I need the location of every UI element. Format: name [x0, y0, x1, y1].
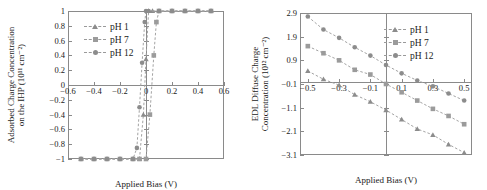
data-point-marker: [446, 142, 451, 147]
data-point-marker: [368, 53, 373, 58]
data-point-marker: [368, 72, 373, 77]
data-point-marker: [399, 90, 404, 95]
data-point-marker: [462, 122, 467, 127]
data-point-marker: [79, 157, 84, 162]
legend-item-ph12-left: pH 12: [84, 46, 134, 59]
data-point-marker: [321, 51, 326, 56]
legend-marker-circle-icon: [384, 50, 406, 61]
data-point-marker: [196, 9, 201, 14]
legend-marker-triangle-icon: [384, 24, 406, 35]
data-point-marker: [352, 92, 357, 97]
data-point-marker: [446, 91, 451, 96]
data-point-marker: [157, 9, 162, 14]
legend-item-ph7-right: pH 7: [384, 36, 434, 49]
data-point-marker: [105, 157, 110, 162]
data-point-marker: [209, 9, 214, 14]
data-point-marker: [143, 56, 148, 61]
x-axis-title-left: Applied Bias (V): [68, 179, 224, 189]
data-point-marker: [352, 45, 357, 50]
data-point-marker: [146, 9, 151, 14]
data-point-marker: [92, 157, 97, 162]
legend-item-ph7-left: pH 7: [84, 33, 134, 46]
data-point-marker: [305, 68, 310, 73]
data-point-marker: [135, 146, 140, 151]
data-point-marker: [415, 98, 420, 103]
data-point-marker: [399, 117, 404, 122]
data-point-marker: [368, 99, 373, 104]
data-point-marker: [131, 157, 136, 162]
data-point-marker: [321, 77, 326, 82]
data-point-marker: [148, 112, 153, 117]
data-point-marker: [142, 20, 147, 25]
legend-marker-circle-icon: [84, 47, 106, 58]
data-point-marker: [306, 44, 311, 49]
legend-label-ph1-left: pH 1: [110, 22, 129, 32]
legend-label-ph7-right: pH 7: [410, 38, 429, 48]
legend-item-ph12-right: pH 12: [384, 49, 434, 62]
data-point-marker: [140, 61, 145, 66]
legend-label-ph1-right: pH 1: [410, 25, 429, 35]
data-point-marker: [415, 126, 420, 131]
legend-marker-square-icon: [84, 34, 106, 45]
data-point-marker: [431, 84, 436, 89]
series-ph-1: [305, 68, 467, 154]
x-axis-title-right: Applied Bias (V): [300, 175, 472, 185]
data-point-marker: [306, 14, 311, 19]
legend-right: pH 1 pH 7 pH 12: [384, 23, 434, 62]
data-point-marker: [141, 112, 146, 117]
data-point-marker: [137, 157, 142, 162]
data-point-marker: [352, 68, 357, 73]
data-point-marker: [170, 9, 175, 14]
legend-label-ph12-right: pH 12: [410, 51, 434, 61]
chart-panel-adsorbed-charge: Adsorbed Charge Concentration on the IHP…: [0, 0, 243, 190]
legend-marker-triangle-icon: [84, 21, 106, 32]
legend-item-ph1-right: pH 1: [384, 23, 434, 36]
data-point-marker: [321, 27, 326, 32]
data-point-marker: [337, 58, 342, 63]
data-point-marker: [384, 63, 389, 68]
legend-marker-square-icon: [384, 37, 406, 48]
data-point-marker: [430, 132, 435, 137]
data-point-marker: [384, 82, 389, 87]
data-point-marker: [154, 20, 159, 25]
data-point-marker: [137, 105, 142, 110]
data-point-marker: [415, 78, 420, 83]
data-point-marker: [399, 71, 404, 76]
data-point-marker: [446, 114, 451, 119]
data-point-marker: [461, 150, 466, 155]
legend-left: pH 1 pH 7 pH 12: [84, 20, 134, 59]
data-point-marker: [144, 157, 149, 162]
data-point-marker: [383, 107, 388, 112]
data-point-marker: [462, 98, 467, 103]
legend-label-ph7-left: pH 7: [110, 35, 129, 45]
data-point-marker: [152, 53, 157, 58]
series-layer-right: [244, 0, 487, 190]
legend-label-ph12-left: pH 12: [110, 48, 134, 58]
chart-panel-edl-diffuse-charge: EDL Diffuse Charge Concentration (10¹² c…: [244, 0, 487, 190]
figure-two-panel-charts: Adsorbed Charge Concentration on the IHP…: [0, 0, 487, 190]
data-point-marker: [337, 36, 342, 41]
legend-item-ph1-left: pH 1: [84, 20, 134, 33]
data-point-marker: [431, 107, 436, 112]
data-point-marker: [183, 9, 188, 14]
data-point-marker: [118, 157, 123, 162]
